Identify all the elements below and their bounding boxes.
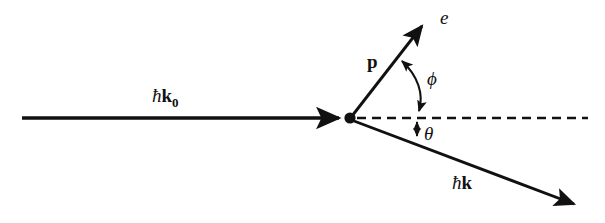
wavevector-symbol: k [162, 85, 173, 106]
wavevector-symbol: k [462, 172, 473, 193]
theta-angle-label: θ [424, 124, 433, 143]
electron-momentum-label: p [367, 52, 378, 71]
wavevector-subscript: 0 [172, 95, 179, 110]
scattered-photon-label: ħk [452, 173, 472, 192]
electron-label: e [440, 8, 448, 27]
incident-photon-label: ħk0 [152, 86, 179, 109]
hbar-symbol: ħ [152, 85, 162, 106]
compton-scattering-diagram [0, 0, 605, 223]
phi-angle-label: ϕ [427, 69, 437, 88]
hbar-symbol: ħ [452, 172, 462, 193]
phi-angle-arc [402, 61, 421, 111]
